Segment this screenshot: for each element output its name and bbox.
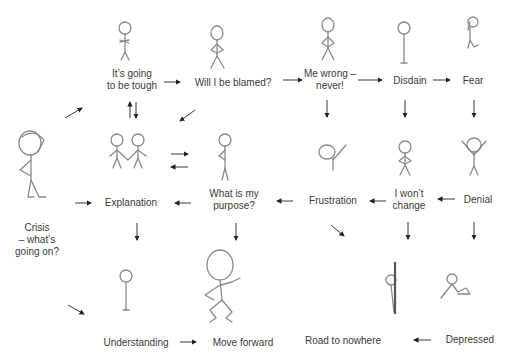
node-fear: Fear bbox=[463, 75, 484, 87]
node-understanding: Understanding bbox=[103, 337, 168, 349]
node-depressed: Depressed bbox=[446, 334, 494, 346]
fear-figure bbox=[468, 17, 478, 48]
node-explanation: Explanation bbox=[105, 197, 157, 209]
node-denial: Denial bbox=[464, 194, 492, 206]
pair-figure bbox=[110, 134, 146, 168]
denial-figure bbox=[462, 138, 486, 175]
depressed-figure bbox=[441, 274, 470, 298]
node-crisis: Crisis – what’s going on? bbox=[15, 222, 59, 258]
node-disdain: Disdain bbox=[393, 75, 426, 87]
nowhere-figure bbox=[386, 262, 396, 314]
diagram-canvas bbox=[0, 0, 505, 359]
blamed-figure bbox=[211, 26, 224, 68]
wrong-figure bbox=[322, 18, 334, 60]
node-wontchange: I won’t change bbox=[393, 188, 426, 212]
node-purpose: What is my purpose? bbox=[209, 188, 258, 212]
frustration-figure bbox=[319, 145, 346, 170]
moveforward-figure bbox=[205, 250, 240, 322]
node-frustration: Frustration bbox=[309, 195, 357, 207]
confused-figure bbox=[219, 134, 231, 180]
node-wrong: Me wrong – never! bbox=[304, 68, 356, 92]
node-tough: It’s going to be tough bbox=[107, 68, 157, 92]
node-blamed: Will I be blamed? bbox=[195, 77, 272, 89]
node-moveforward: Move forward bbox=[213, 337, 274, 349]
tough-figure bbox=[119, 22, 131, 60]
node-nowhere: Road to nowhere bbox=[305, 335, 381, 347]
disdain-figure bbox=[398, 22, 410, 63]
understanding-figure bbox=[120, 270, 132, 310]
crisis-figure bbox=[19, 131, 46, 197]
wontchange-figure bbox=[399, 141, 411, 175]
